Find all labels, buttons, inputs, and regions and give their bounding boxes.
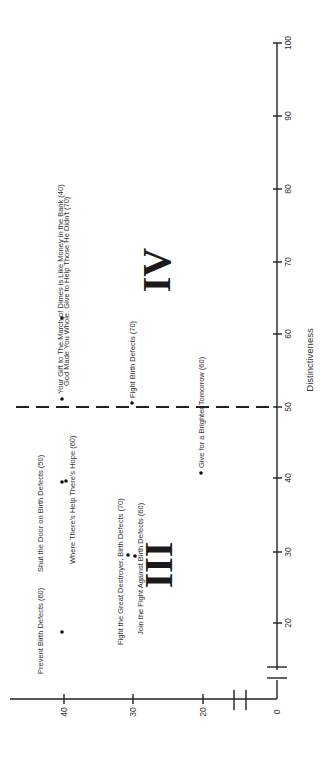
y-tick-0: 0 [272, 709, 282, 714]
x-tick-60: 60 [283, 329, 293, 339]
x-tick-20: 20 [283, 618, 293, 628]
x-tick-40: 40 [283, 473, 293, 483]
label-fight-birth-defects: Fight Birth Defects (70) [128, 320, 137, 398]
x-axis [267, 43, 287, 699]
x-tick-90: 90 [283, 111, 293, 121]
x-tick-100: 100 [283, 36, 293, 50]
y-tick-30: 30 [128, 707, 138, 717]
label-great-destroyer: Fight the Great Destroyer, Birth Defects… [116, 498, 125, 645]
label-where-theres-help: Where There's Help There's Hope (60) [68, 435, 77, 564]
point-labels: Your Gift to The March of Dimes is Like … [36, 184, 206, 674]
x-tick-80: 80 [283, 184, 293, 194]
point-brighter-tomorrow [199, 471, 203, 475]
quadrant-iv-label: IV [134, 248, 179, 293]
label-prevent-birth-defects: Prevent Birth Defects (60) [36, 587, 45, 674]
label-shut-the-door: Shut the Door on Birth Defects (50) [36, 454, 45, 572]
y-tick-40: 40 [59, 707, 69, 717]
label-god-made: God Made You Whole. Give to Help Those H… [62, 196, 71, 386]
point-shut-the-door [60, 480, 64, 484]
label-join-the-fight: Join the Fight Against Birth Defects (60… [136, 502, 145, 635]
x-tick-70: 70 [283, 257, 293, 267]
point-fight-birth-defects [130, 401, 134, 405]
x-axis-title: Distinctiveness [304, 328, 315, 392]
x-tick-labels: 100 90 80 70 60 50 40 30 20 [283, 36, 293, 628]
label-brighter-tomorrow: Give for a Brighter Tomorrow (60) [197, 356, 206, 468]
y-tick-labels: 40 30 20 0 [59, 707, 282, 717]
scatter-chart: 100 90 80 70 60 50 40 30 20 Distinctiven… [0, 0, 336, 765]
x-tick-30: 30 [283, 547, 293, 557]
y-tick-20: 20 [198, 707, 208, 717]
point-great-destroyer [126, 553, 130, 557]
x-tick-50: 50 [283, 402, 293, 412]
point-your-gift [60, 397, 64, 401]
point-prevent-birth-defects [60, 630, 64, 634]
y-axis [10, 690, 277, 710]
